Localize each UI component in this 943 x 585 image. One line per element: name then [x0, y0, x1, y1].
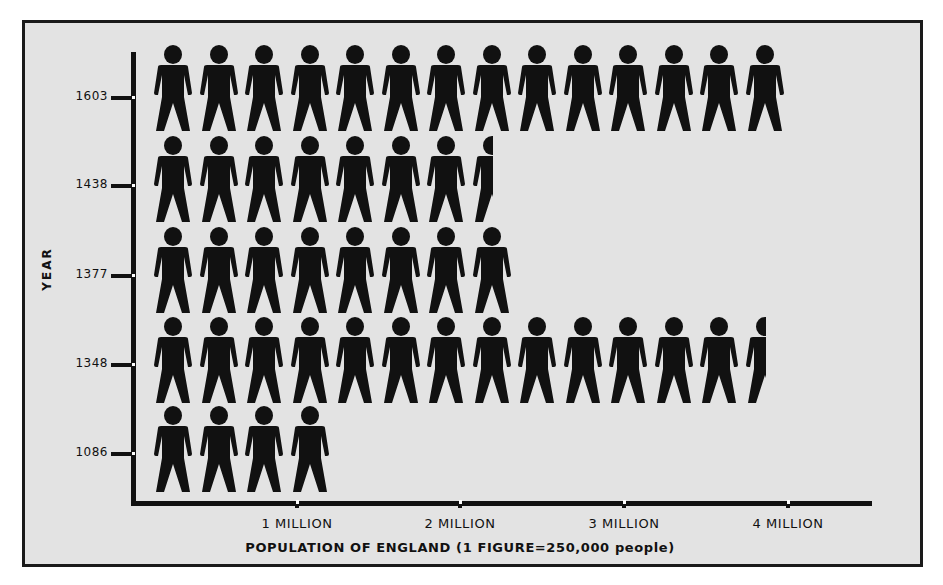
- person-figure-icon: [243, 227, 285, 315]
- y-tick-label: 1438: [48, 177, 108, 191]
- y-axis-line: [131, 52, 136, 506]
- x-tick-stub: [786, 505, 790, 508]
- x-tick-label: 1 MILLION: [237, 516, 357, 531]
- person-figure-icon: [334, 317, 376, 405]
- y-tick-marker: [132, 452, 135, 455]
- person-figure-icon: [198, 136, 240, 224]
- person-figure-icon: [380, 317, 422, 405]
- person-figure-icon: [152, 317, 194, 405]
- x-axis-title: POPULATION OF ENGLAND (1 FIGURE=250,000 …: [150, 540, 770, 555]
- y-tick-label: 1348: [48, 356, 108, 370]
- y-tick-marker: [132, 96, 135, 99]
- x-tick: [623, 500, 626, 504]
- person-figure-icon: [243, 317, 285, 405]
- x-tick: [787, 500, 790, 504]
- x-tick-label: 3 MILLION: [564, 516, 684, 531]
- pictogram-row-1438: [152, 136, 516, 224]
- person-figure-icon: [744, 317, 766, 405]
- person-figure-icon: [380, 227, 422, 315]
- person-figure-icon: [243, 406, 285, 494]
- person-figure-icon: [653, 317, 695, 405]
- pictogram-row-1603: [152, 45, 789, 133]
- person-figure-icon: [425, 45, 467, 133]
- person-figure-icon: [152, 406, 194, 494]
- person-figure-icon: [425, 227, 467, 315]
- y-tick: [111, 184, 132, 188]
- person-figure-icon: [516, 45, 558, 133]
- y-tick: [111, 274, 132, 278]
- y-tick: [111, 96, 132, 100]
- person-figure-icon: [152, 136, 194, 224]
- person-figure-icon: [425, 317, 467, 405]
- person-figure-icon: [198, 406, 240, 494]
- person-figure-icon: [334, 45, 376, 133]
- y-tick: [111, 363, 132, 367]
- x-tick-label: 4 MILLION: [728, 516, 848, 531]
- person-figure-icon: [289, 45, 331, 133]
- person-figure-icon: [380, 136, 422, 224]
- person-figure-icon: [516, 317, 558, 405]
- x-tick: [459, 500, 462, 504]
- person-figure-icon: [289, 136, 331, 224]
- person-figure-icon: [562, 45, 604, 133]
- y-tick-marker: [132, 184, 135, 187]
- person-figure-icon: [289, 317, 331, 405]
- person-figure-icon: [198, 227, 240, 315]
- person-figure-icon: [334, 227, 376, 315]
- x-tick-label: 2 MILLION: [400, 516, 520, 531]
- person-figure-icon: [152, 45, 194, 133]
- pictogram-row-1086: [152, 406, 334, 494]
- person-figure-icon: [380, 45, 422, 133]
- person-figure-icon: [653, 45, 695, 133]
- person-figure-icon: [698, 45, 740, 133]
- person-figure-icon: [243, 45, 285, 133]
- person-figure-icon: [471, 136, 493, 224]
- y-tick-marker: [132, 274, 135, 277]
- person-figure-icon: [607, 317, 649, 405]
- person-figure-icon: [334, 136, 376, 224]
- x-tick-stub: [622, 505, 626, 508]
- person-figure-icon: [289, 406, 331, 494]
- person-figure-icon: [471, 45, 513, 133]
- person-figure-icon: [243, 136, 285, 224]
- y-tick-marker: [132, 363, 135, 366]
- person-figure-icon: [471, 227, 513, 315]
- y-tick: [111, 452, 132, 456]
- person-figure-icon: [152, 227, 194, 315]
- person-figure-icon: [562, 317, 604, 405]
- person-figure-icon: [607, 45, 649, 133]
- y-tick-label: 1377: [48, 267, 108, 281]
- x-axis-line: [131, 501, 872, 506]
- pictogram-row-1377: [152, 227, 516, 315]
- y-tick-label: 1086: [48, 445, 108, 459]
- person-figure-icon: [198, 317, 240, 405]
- x-tick-stub: [295, 505, 299, 508]
- y-tick-label: 1603: [48, 89, 108, 103]
- person-figure-icon: [744, 45, 786, 133]
- person-figure-icon: [198, 45, 240, 133]
- person-figure-icon: [289, 227, 331, 315]
- person-figure-icon: [471, 317, 513, 405]
- person-figure-icon: [425, 136, 467, 224]
- pictogram-row-1348: [152, 317, 789, 405]
- x-tick-stub: [458, 505, 462, 508]
- person-figure-icon: [698, 317, 740, 405]
- x-tick: [296, 500, 299, 504]
